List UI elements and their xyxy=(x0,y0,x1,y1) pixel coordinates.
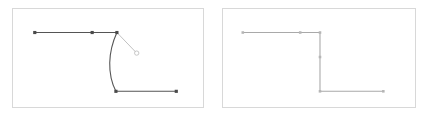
corner-path-canvas[interactable] xyxy=(223,9,415,107)
figure-stage xyxy=(0,0,431,117)
curved-path-canvas[interactable] xyxy=(13,9,203,107)
node-start[interactable] xyxy=(33,31,36,34)
curved-segment-panel[interactable] xyxy=(12,8,204,108)
node-end[interactable] xyxy=(175,90,178,93)
node-corner-top[interactable] xyxy=(115,31,118,34)
node-corner-top[interactable] xyxy=(319,31,322,34)
vector-path-curved[interactable] xyxy=(35,33,177,92)
node-mid-top[interactable] xyxy=(299,31,302,34)
node-mid-vertical[interactable] xyxy=(319,56,322,59)
curved-path-group[interactable] xyxy=(33,31,178,93)
bezier-control-handle-line[interactable] xyxy=(117,33,137,54)
vector-path-corner[interactable] xyxy=(243,33,384,92)
node-corner-bottom[interactable] xyxy=(319,90,322,93)
node-end[interactable] xyxy=(382,90,385,93)
node-corner-bottom[interactable] xyxy=(114,90,117,93)
bezier-control-handle-knob[interactable] xyxy=(135,51,139,55)
node-mid-top[interactable] xyxy=(91,31,94,34)
corner-segment-panel[interactable] xyxy=(222,8,416,108)
path-node-group[interactable] xyxy=(33,31,178,93)
corner-path-group[interactable] xyxy=(242,31,385,92)
node-start[interactable] xyxy=(242,31,245,34)
path-node-group[interactable] xyxy=(242,31,385,92)
